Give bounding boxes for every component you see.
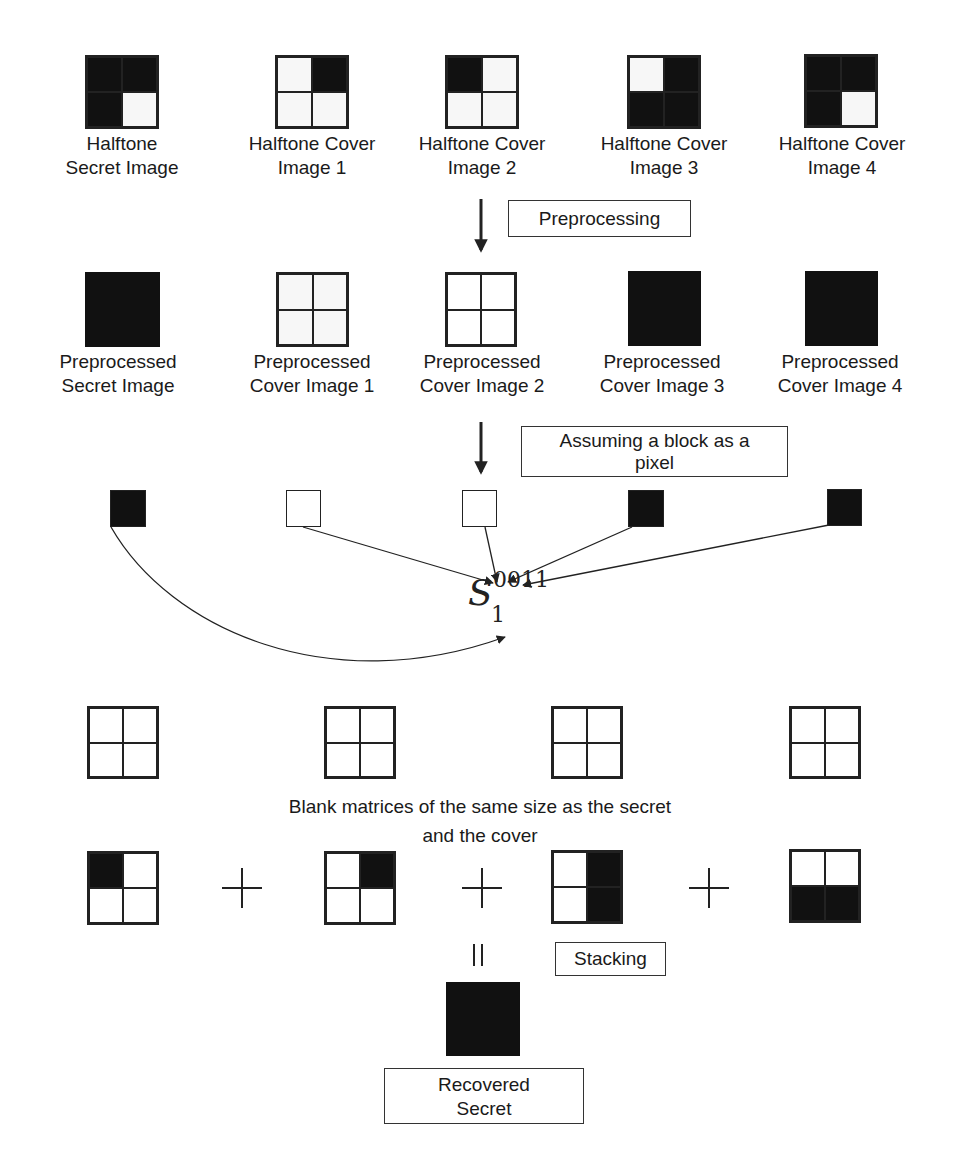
arrow-icon [508, 527, 632, 582]
arrow-icon [111, 527, 505, 661]
arrow-icon [485, 527, 497, 582]
arrow-icon [303, 527, 493, 583]
arrows-layer [0, 0, 955, 1165]
